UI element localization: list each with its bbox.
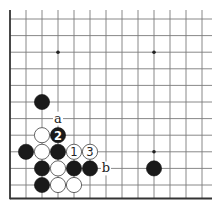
black-stone bbox=[34, 94, 49, 109]
point-label-a: a bbox=[54, 111, 62, 126]
white-stone bbox=[66, 177, 81, 192]
white-stone bbox=[34, 144, 49, 159]
black-stone bbox=[34, 161, 49, 176]
black-stone bbox=[66, 161, 81, 176]
white-stone bbox=[34, 128, 49, 143]
white-stone bbox=[50, 161, 65, 176]
black-stone bbox=[34, 177, 49, 192]
black-stone bbox=[146, 161, 161, 176]
black-stone bbox=[82, 161, 97, 176]
black-stone: 2 bbox=[50, 128, 65, 143]
move-number: 3 bbox=[86, 145, 93, 159]
black-stone bbox=[50, 144, 65, 159]
go-board: ab 213 bbox=[0, 0, 220, 212]
move-number: 2 bbox=[54, 129, 62, 143]
star-point bbox=[152, 150, 156, 154]
white-stone bbox=[50, 177, 65, 192]
white-stone: 1 bbox=[66, 144, 81, 159]
point-label-b: b bbox=[102, 160, 110, 175]
star-point bbox=[56, 50, 60, 54]
white-stone: 3 bbox=[82, 144, 97, 159]
star-point bbox=[152, 50, 156, 54]
move-number: 1 bbox=[70, 145, 77, 159]
black-stone bbox=[18, 144, 33, 159]
